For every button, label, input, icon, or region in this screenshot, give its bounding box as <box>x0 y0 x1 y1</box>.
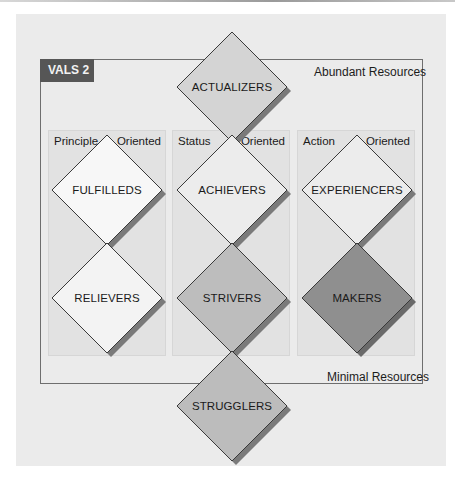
segment-label: RELIEVERS <box>52 243 162 353</box>
segment-relievers: RELIEVERS <box>52 243 162 353</box>
segment-makers: MAKERS <box>302 243 412 353</box>
abundant-resources-label: Abundant Resources <box>314 65 426 79</box>
segment-label: MAKERS <box>302 243 412 353</box>
minimal-resources-label: Minimal Resources <box>327 370 429 384</box>
segment-label: FULFILLEDS <box>52 135 162 245</box>
segment-strugglers: STRUGGLERS <box>177 351 287 461</box>
segment-actualizers: ACTUALIZERS <box>177 32 287 142</box>
segment-label: EXPERIENCERS <box>302 135 412 245</box>
segment-fulfilleds: FULFILLEDS <box>52 135 162 245</box>
top-rule <box>0 0 455 2</box>
segment-label: ACTUALIZERS <box>177 32 287 142</box>
segment-label: STRIVERS <box>177 243 287 353</box>
vals-badge: VALS 2 <box>40 59 94 82</box>
segment-achievers: ACHIEVERS <box>177 135 287 245</box>
segment-experiencers: EXPERIENCERS <box>302 135 412 245</box>
segment-label: ACHIEVERS <box>177 135 287 245</box>
segment-label: STRUGGLERS <box>177 351 287 461</box>
segment-strivers: STRIVERS <box>177 243 287 353</box>
